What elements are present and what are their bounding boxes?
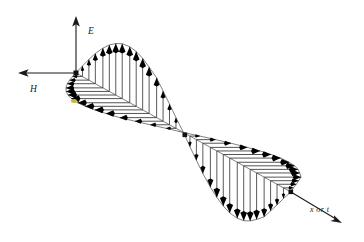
wave-vector-field xyxy=(66,43,301,220)
e-field-vector-head xyxy=(81,66,85,71)
h-field-vector-head xyxy=(224,141,231,146)
e-field-vector-head xyxy=(247,211,254,221)
e-field-vector-head xyxy=(226,203,233,213)
e-field-vector-head xyxy=(146,67,153,77)
h-field-vector-head xyxy=(239,144,247,150)
end-node-marker xyxy=(289,190,294,195)
e-field-vector-head xyxy=(253,210,260,220)
h-axis-label: H xyxy=(29,84,38,94)
e-field-vector-head xyxy=(119,44,126,54)
e-field-vector-head xyxy=(87,59,91,65)
axis-group xyxy=(18,16,342,223)
e-field-vector-head xyxy=(220,196,227,206)
e-field-vector-head xyxy=(240,211,247,221)
h-field-vector-head xyxy=(251,148,260,154)
h-field-vector-head xyxy=(95,107,104,114)
e-field-vector-head xyxy=(275,199,279,205)
h-field-vector-head xyxy=(195,134,200,138)
h-axis xyxy=(18,69,76,77)
e-field-envelope xyxy=(76,43,291,220)
h-field-vector-head xyxy=(166,127,171,131)
h-field-vector-head xyxy=(120,115,128,121)
h-field-vector-head xyxy=(85,103,94,110)
h-field-vector-head xyxy=(106,110,115,116)
e-field-vector-head xyxy=(214,188,221,198)
e-field-vector-head xyxy=(133,51,140,61)
left-lobe-highlight-dot xyxy=(71,99,77,103)
h-field-vector-head xyxy=(210,137,216,141)
propagation-axis-label: x or t xyxy=(309,205,330,214)
em-wave-figure: E H x or t xyxy=(0,0,364,242)
e-field-vector-head xyxy=(112,43,119,53)
wave-diagram-canvas: E H x or t xyxy=(0,0,364,242)
h-field-vector-head xyxy=(262,151,271,158)
e-field-vector-head xyxy=(261,208,267,217)
e-field-vector-head xyxy=(93,53,98,61)
origin-node-marker xyxy=(74,71,79,76)
mid-node-marker xyxy=(183,133,188,138)
h-field-vector-head xyxy=(272,155,281,162)
h-field-vector-head xyxy=(150,123,156,127)
e-field-vector-head xyxy=(268,203,273,211)
h-field-vector-head xyxy=(135,119,142,124)
e-axis-label: E xyxy=(87,26,94,36)
e-axis xyxy=(72,16,80,73)
e-field-vector-head xyxy=(139,58,146,68)
